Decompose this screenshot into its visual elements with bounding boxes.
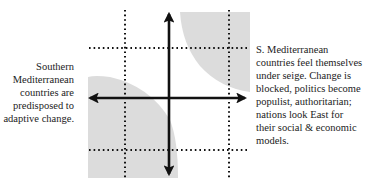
right-caption-line: their social & economic	[256, 121, 368, 134]
left-caption-line: Southern	[2, 60, 74, 73]
left-caption: Southern Mediterranean countries are pre…	[2, 60, 74, 125]
right-caption-line: models.	[256, 134, 368, 147]
left-caption-line: countries are	[2, 86, 74, 99]
right-caption-line: S. Mediterranean	[256, 43, 368, 56]
right-caption-line: nations look East for	[256, 108, 368, 121]
shaded-region-bottom-left	[88, 76, 178, 178]
right-caption-line: under seige. Change is	[256, 69, 368, 82]
right-caption: S. Mediterranean countries feel themselv…	[256, 43, 368, 147]
right-caption-line: populist, authoritarian;	[256, 95, 368, 108]
left-caption-line: adaptive change.	[2, 112, 74, 125]
left-caption-line: Mediterranean	[2, 73, 74, 86]
right-caption-line: blocked, politics become	[256, 82, 368, 95]
right-caption-line: countries feel themselves	[256, 56, 368, 69]
left-caption-line: predisposed to	[2, 99, 74, 112]
shaded-region-top-right	[180, 12, 250, 92]
